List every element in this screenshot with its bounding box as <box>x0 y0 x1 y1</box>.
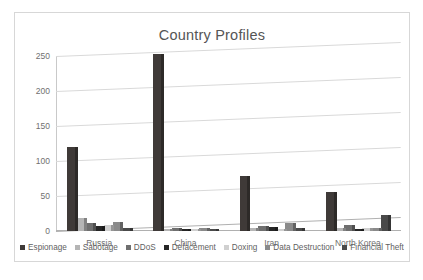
bar-side <box>188 229 191 231</box>
y-axis-tick-label: 250 <box>36 51 50 61</box>
bar-side <box>207 228 210 231</box>
bar-side <box>275 227 278 231</box>
legend-label: Financial Theft <box>350 243 404 252</box>
bar-face <box>326 192 334 231</box>
bar-side <box>111 225 114 231</box>
legend-item-defacement[interactable]: Defacement <box>164 243 216 252</box>
bar-side <box>379 228 382 232</box>
legend-item-financial-theft[interactable]: Financial Theft <box>342 243 404 252</box>
gridline <box>56 182 401 197</box>
y-axis-tick-label: 100 <box>36 156 50 166</box>
bar-side <box>179 228 182 231</box>
bar-side <box>302 228 305 231</box>
bar-side <box>93 223 96 231</box>
bar-side <box>161 54 164 231</box>
y-axis-tick-label: 150 <box>36 121 50 131</box>
bar-side <box>334 192 337 231</box>
gridline <box>56 112 401 127</box>
legend-label: DDoS <box>134 243 156 252</box>
bar-side <box>130 228 133 232</box>
bar-china-espionage <box>153 54 161 231</box>
bar-side <box>170 229 173 231</box>
legend-label: Data Destruction <box>273 243 334 252</box>
legend-item-ddos[interactable]: DDoS <box>126 243 156 252</box>
bar-side <box>284 229 287 231</box>
bar-side <box>198 229 201 231</box>
bar-side <box>370 228 373 231</box>
gridline <box>56 77 401 92</box>
y-axis-tick-label: 200 <box>36 86 50 96</box>
bar-side <box>352 225 355 231</box>
gridline <box>56 147 401 162</box>
legend-swatch-icon <box>224 245 229 250</box>
legend-swatch-icon <box>164 245 169 250</box>
bar-face <box>67 147 75 231</box>
bar-face <box>153 54 161 231</box>
legend-swatch-icon <box>20 245 25 250</box>
legend-swatch-icon <box>265 245 270 250</box>
legend-swatch-icon <box>126 245 131 250</box>
bar-side <box>361 229 364 231</box>
legend-item-doxing[interactable]: Doxing <box>224 243 258 252</box>
bar-russia-espionage <box>67 147 75 231</box>
legend-label: Sabotage <box>83 243 118 252</box>
bar-side <box>388 215 391 231</box>
legend-label: Defacement <box>172 243 216 252</box>
chart-container: Country Profiles 050100150200250 RussiaC… <box>14 12 410 262</box>
bar-side <box>102 226 105 231</box>
legend-swatch-icon <box>75 245 80 250</box>
plot-area: 050100150200250 RussiaChinaIranNorth Kor… <box>56 56 401 231</box>
legend-swatch-icon <box>342 245 347 250</box>
y-axis-line <box>56 56 57 231</box>
bar-side <box>247 176 250 231</box>
legend-item-espionage[interactable]: Espionage <box>20 243 67 252</box>
y-axis-tick-label: 50 <box>41 191 50 201</box>
bar-side <box>120 222 123 231</box>
bar-face <box>240 176 248 231</box>
bar-side <box>343 228 346 231</box>
chart-legend: EspionageSabotageDDoSDefacementDoxingDat… <box>15 243 409 252</box>
bar-side <box>75 147 78 231</box>
legend-item-data-destruction[interactable]: Data Destruction <box>265 243 334 252</box>
bar-side <box>216 229 219 231</box>
chart-title: Country Profiles <box>15 27 409 43</box>
bar-north-korea-espionage <box>326 192 334 231</box>
bar-side <box>256 228 259 232</box>
bar-side <box>266 226 269 231</box>
gridline <box>56 42 401 57</box>
legend-label: Espionage <box>28 243 67 252</box>
legend-label: Doxing <box>232 243 258 252</box>
bar-iran-espionage <box>240 176 248 231</box>
y-axis-tick-label: 0 <box>45 226 50 236</box>
bar-side <box>293 223 296 231</box>
legend-item-sabotage[interactable]: Sabotage <box>75 243 118 252</box>
bar-side <box>84 218 87 231</box>
